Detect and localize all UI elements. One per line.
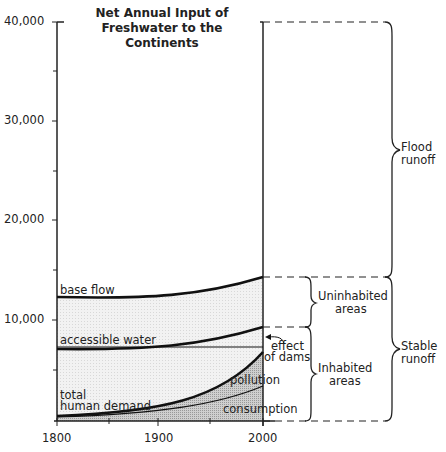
human-demand-label: human demand — [60, 400, 151, 413]
base-flow-label: base flow — [60, 284, 115, 297]
x-tick-2000: 2000 — [248, 432, 277, 445]
chart-canvas — [0, 0, 446, 452]
y-tick-20000: 20,000 — [4, 213, 44, 226]
y-tick-40000: 40,000 — [4, 15, 44, 28]
consumption-label: consumption — [223, 403, 297, 416]
uninhabited-brace — [305, 277, 316, 327]
accessible-water-label: accessible water — [60, 334, 156, 347]
of-dams-label: of dams — [264, 351, 310, 364]
chart-title: Net Annual Input of Freshwater to the Co… — [64, 6, 260, 51]
pollution-label: pollution — [230, 374, 280, 387]
y-tick-30000: 30,000 — [4, 114, 44, 127]
stable-label-2: runoff — [401, 353, 435, 366]
inhabited-label-2: areas — [329, 375, 361, 388]
x-tick-1900: 1900 — [144, 432, 173, 445]
y-tick-10000: 10,000 — [4, 313, 44, 326]
uninhabited-label-2: areas — [335, 303, 367, 316]
flood-runoff-brace — [385, 22, 400, 277]
flood-label-2: runoff — [401, 154, 435, 167]
title-line-2: Freshwater to the Continents — [64, 21, 260, 51]
title-line-1: Net Annual Input of — [64, 6, 260, 21]
inhabited-brace — [305, 327, 316, 421]
x-tick-1800: 1800 — [42, 432, 71, 445]
